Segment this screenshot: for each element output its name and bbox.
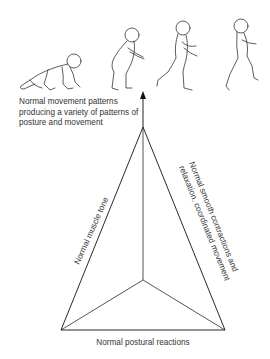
- running-child-illustration: [226, 19, 258, 90]
- top-caption: Normal movement patterns producing a var…: [19, 97, 139, 129]
- triangle-diagram: Normal muscle tone Normal smooth contrac…: [0, 0, 270, 359]
- bottom-edge-label: Normal postural reactions: [96, 338, 189, 347]
- walking-child-illustration: [157, 21, 197, 90]
- pyramid-triangle: [61, 127, 225, 330]
- crawling-child-illustration: [20, 54, 81, 90]
- up-arrow-icon: [140, 91, 146, 127]
- standing-child-illustration: [112, 28, 144, 90]
